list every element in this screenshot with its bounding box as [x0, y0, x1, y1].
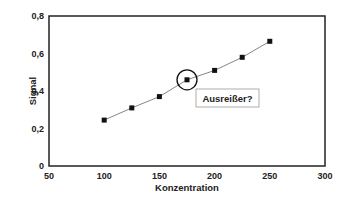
- y-tick-label: 0,6: [31, 49, 44, 59]
- data-point-marker: [212, 68, 217, 73]
- y-axis-title: Signal: [27, 77, 38, 106]
- data-point-marker: [129, 105, 134, 110]
- chart: 00,20,40,60,8 50100150200250300 Signal K…: [0, 0, 347, 199]
- data-point-marker: [102, 118, 107, 123]
- x-tick-label: 50: [44, 171, 54, 181]
- y-tick-label: 0,2: [31, 124, 44, 134]
- data-point-marker: [157, 94, 162, 99]
- x-axis-title: Konzentration: [155, 182, 219, 193]
- data-point-marker: [185, 77, 190, 82]
- x-axis-ticks: 50100150200250300: [44, 171, 333, 181]
- x-tick-label: 100: [97, 171, 112, 181]
- data-point-marker: [267, 39, 272, 44]
- data-point-marker: [240, 55, 245, 60]
- annotation-label: Ausreißer?: [202, 93, 252, 104]
- y-tick-label: 0,8: [31, 11, 44, 21]
- plot-frame: [49, 16, 325, 166]
- x-tick-label: 200: [207, 171, 222, 181]
- x-tick-label: 300: [317, 171, 332, 181]
- y-tick-label: 0: [39, 161, 44, 171]
- x-tick-label: 250: [262, 171, 277, 181]
- x-tick-label: 150: [152, 171, 167, 181]
